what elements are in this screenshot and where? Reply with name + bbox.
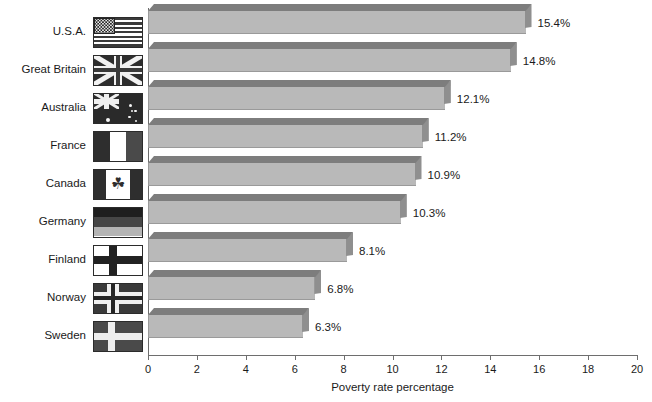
bar-value-label: 12.1%	[457, 93, 490, 105]
category-row: U.S.A.	[0, 13, 148, 51]
x-tick	[637, 355, 638, 360]
category-label: Canada	[46, 178, 93, 190]
bar-top-face	[148, 232, 353, 239]
bar-value-label: 10.3%	[413, 207, 446, 219]
category-label: France	[50, 140, 93, 152]
category-label: Finland	[48, 254, 93, 266]
bar-top-face	[148, 118, 429, 125]
flag-finland-icon	[93, 245, 143, 276]
bar-value-label: 14.8%	[523, 55, 556, 67]
bar-value-label: 8.1%	[359, 245, 385, 257]
x-tick	[344, 355, 345, 360]
bar	[148, 118, 429, 148]
bar	[148, 80, 451, 110]
bar-value-label: 6.3%	[315, 321, 341, 333]
bar-value-label: 11.2%	[435, 131, 467, 143]
bar-top-face	[148, 156, 422, 163]
category-row: Norway	[0, 279, 148, 317]
bar-top-face	[148, 4, 532, 11]
bar	[148, 308, 309, 338]
bar-front-face	[148, 86, 445, 110]
x-tick-label: 10	[386, 363, 398, 375]
bar-front-face	[148, 314, 303, 338]
flag-uk-icon	[93, 55, 143, 86]
category-label: Great Britain	[21, 64, 93, 76]
bar-top-face	[148, 308, 309, 315]
flag-norway-icon	[93, 283, 143, 314]
category-row: Germany	[0, 203, 148, 241]
poverty-rate-bar-chart: U.S.A.Great BritainAustraliaFranceCanada…	[0, 0, 652, 402]
category-label: U.S.A.	[53, 26, 93, 38]
x-tick-label: 6	[292, 363, 298, 375]
bar	[148, 42, 517, 72]
x-tick-label: 2	[194, 363, 200, 375]
x-tick	[148, 355, 149, 360]
bar	[148, 4, 532, 34]
bar-value-label: 6.8%	[327, 283, 353, 295]
category-row: France	[0, 127, 148, 165]
bar-top-face	[148, 270, 321, 277]
category-row: Great Britain	[0, 51, 148, 89]
category-label: Germany	[39, 216, 93, 228]
bar-top-face	[148, 194, 407, 201]
category-row: Finland	[0, 241, 148, 279]
x-tick-label: 4	[243, 363, 249, 375]
bar-front-face	[148, 48, 511, 72]
x-tick-label: 0	[145, 363, 151, 375]
bar-front-face	[148, 162, 416, 186]
bar-top-face	[148, 80, 451, 87]
bar-top-face	[148, 42, 517, 49]
flag-usa-icon	[93, 17, 143, 48]
bar	[148, 232, 353, 262]
x-tick	[393, 355, 394, 360]
bar-value-label: 10.9%	[428, 169, 461, 181]
x-tick	[246, 355, 247, 360]
bar-front-face	[148, 238, 347, 262]
category-row: Australia	[0, 89, 148, 127]
x-axis-title: Poverty rate percentage	[331, 381, 454, 393]
category-label: Australia	[41, 102, 93, 114]
flag-canada-icon: ☘	[93, 169, 143, 200]
flag-france-icon	[93, 131, 143, 162]
bar-front-face	[148, 200, 401, 224]
x-tick	[441, 355, 442, 360]
bar-value-label: 15.4%	[538, 17, 571, 29]
category-label: Norway	[47, 292, 93, 304]
category-row: Canada☘	[0, 165, 148, 203]
x-tick	[490, 355, 491, 360]
bar	[148, 270, 321, 300]
x-tick	[197, 355, 198, 360]
x-tick-label: 18	[582, 363, 594, 375]
x-tick-label: 16	[533, 363, 545, 375]
x-tick	[588, 355, 589, 360]
bar-front-face	[148, 10, 526, 34]
category-label: Sweden	[44, 330, 93, 342]
flag-australia-icon	[93, 93, 143, 124]
x-tick-label: 20	[631, 363, 643, 375]
x-tick-label: 8	[341, 363, 347, 375]
x-tick	[539, 355, 540, 360]
plot-area: 02468101214161820 15.4%14.8%12.1%11.2%10…	[148, 0, 652, 402]
bar	[148, 194, 407, 224]
flag-germany-icon	[93, 207, 143, 238]
bar-front-face	[148, 276, 315, 300]
flag-sweden-icon	[93, 321, 143, 352]
category-row: Sweden	[0, 317, 148, 355]
x-tick-label: 12	[435, 363, 447, 375]
bar-front-face	[148, 124, 423, 148]
x-tick	[295, 355, 296, 360]
bar	[148, 156, 422, 186]
x-tick-label: 14	[484, 363, 496, 375]
